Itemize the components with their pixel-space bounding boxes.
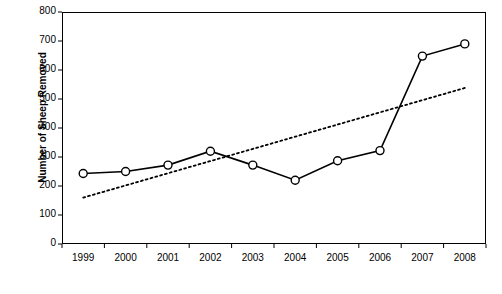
x-axis-tick-label: 2000 [102, 252, 150, 263]
y-axis-tick-label: 400 [14, 121, 56, 132]
trend-line-series [83, 88, 465, 198]
x-axis-tick-label: 1999 [59, 252, 107, 263]
x-axis-tick-label: 2007 [398, 252, 446, 263]
x-axis-tick-label: 2004 [271, 252, 319, 263]
data-point-marker [206, 147, 214, 155]
x-axis-tick-label: 2008 [441, 252, 489, 263]
y-axis-tick-label: 600 [14, 63, 56, 74]
data-line-series [83, 44, 465, 180]
y-axis-tick-label: 0 [14, 237, 56, 248]
x-axis-tick-label: 2001 [144, 252, 192, 263]
y-axis-tick-label: 700 [14, 34, 56, 45]
y-axis-tick-label: 800 [14, 5, 56, 16]
x-axis-tick-label: 2006 [356, 252, 404, 263]
y-axis-tick-label: 500 [14, 92, 56, 103]
data-point-marker [249, 161, 257, 169]
data-point-marker [164, 161, 172, 169]
chart-graphics [0, 0, 502, 294]
y-axis-tick-label: 300 [14, 150, 56, 161]
sheep-removal-line-chart: Number of Sheep Removed 0100200300400500… [0, 0, 502, 294]
data-point-marker [122, 168, 130, 176]
data-point-marker [291, 176, 299, 184]
x-axis-tick-label: 2002 [186, 252, 234, 263]
y-axis-tick-label: 200 [14, 179, 56, 190]
x-axis-ticks [62, 244, 486, 248]
data-point-markers [79, 40, 469, 184]
data-point-marker [418, 52, 426, 60]
x-axis-tick-label: 2005 [314, 252, 362, 263]
x-axis-tick-label: 2003 [229, 252, 277, 263]
data-point-marker [376, 147, 384, 155]
data-point-marker [334, 157, 342, 165]
y-axis-ticks [58, 12, 62, 244]
y-axis-tick-label: 100 [14, 208, 56, 219]
data-point-marker [461, 40, 469, 48]
data-point-marker [79, 170, 87, 178]
